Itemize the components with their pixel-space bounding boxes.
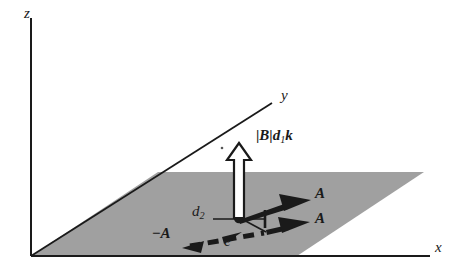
b-field-magnitude-label: |B|d1k bbox=[256, 128, 293, 145]
d2-subscript: 2 bbox=[200, 210, 205, 221]
vector-plane-diagram: z y x |B|d1k d2 A A −A e bbox=[0, 0, 453, 272]
vector-a-lower-label: A bbox=[315, 211, 325, 226]
y-axis-label: y bbox=[281, 88, 288, 103]
z-axis-label: z bbox=[24, 6, 30, 21]
edge-e-label: e bbox=[224, 234, 231, 249]
d2-distance-label: d2 bbox=[192, 204, 205, 221]
vector-minus-a-label: −A bbox=[152, 226, 171, 241]
b-field-b-symbol: B bbox=[259, 127, 269, 143]
minus-sign: − bbox=[152, 225, 161, 241]
vector-a-upper-label: A bbox=[315, 186, 325, 201]
scan-speck bbox=[221, 147, 224, 150]
d2-symbol: d bbox=[192, 203, 200, 219]
x-axis-label: x bbox=[435, 240, 442, 255]
b-field-k-symbol: k bbox=[285, 127, 293, 143]
diagram-canvas bbox=[0, 0, 453, 272]
minus-a-symbol: A bbox=[161, 225, 171, 241]
